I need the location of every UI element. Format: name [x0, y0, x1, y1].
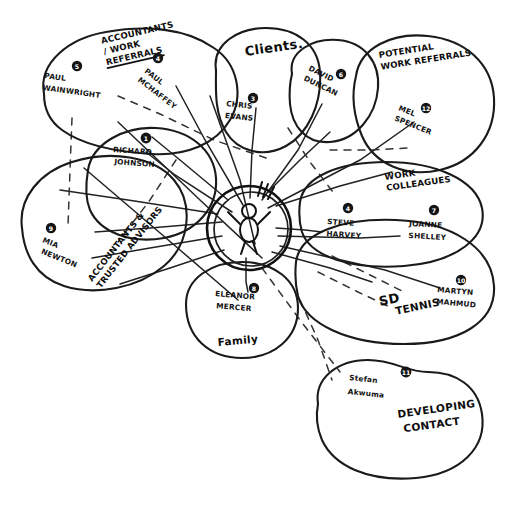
node-eleanor-mercer[interactable]: 8 ELEANOR MERCER	[214, 283, 259, 314]
node-chris-evans[interactable]: 3 CHRIS EVANS	[225, 93, 259, 123]
link-center-to-steve-harvey	[276, 228, 322, 232]
badge-number-martyn-mahmud: 10	[457, 277, 466, 284]
person-name-martyn-mahmud-line1: MARTYN	[437, 285, 474, 297]
person-name-joanne-shelley-line2: SHELLEY	[408, 231, 447, 242]
person-name-richard-johnson-line2: JOHNSON	[113, 157, 155, 169]
badge-number-eleanor-mercer: 8	[252, 285, 256, 292]
link-spoke-lower-right	[272, 252, 372, 282]
link-spoke-right-upper	[276, 172, 392, 206]
node-mia-newton[interactable]: 9 MIA NEWTON	[37, 223, 83, 270]
badge-number-richard-johnson: 1	[144, 135, 148, 142]
person-name-steve-harvey-line2: HARVEY	[326, 229, 362, 240]
node-paul-wainwright[interactable]: 5 PAUL WAINWRIGHT	[42, 61, 103, 100]
network-map-svg: ACCOUNTANTS / WORK REFERRALS Clients. PO…	[0, 0, 520, 510]
person-name-stefan-akwuma-line1: Stefan	[349, 373, 378, 385]
person-name-stefan-akwuma-line2: Akwuma	[347, 387, 384, 400]
node-stefan-akwuma[interactable]: 11 Stefan Akwuma	[347, 367, 411, 400]
badge-number-paul-mchaffey: 4	[156, 55, 161, 62]
person-name-paul-wainwright-line1: PAUL	[44, 71, 67, 83]
person-name-eleanor-mercer-line1: ELEANOR	[215, 289, 256, 301]
badge-number-mia-newton: 9	[49, 225, 53, 232]
person-name-chris-evans-line1: CHRIS	[226, 99, 253, 111]
diagram-canvas: ACCOUNTANTS / WORK REFERRALS Clients. PO…	[0, 0, 520, 510]
link-spoke-lower-left	[120, 250, 224, 284]
person-name-paul-wainwright-line2: WAINWRIGHT	[42, 83, 101, 100]
group-label-developing-contact-line1: DEVELOPING	[397, 397, 476, 420]
badge-number-steve-harvey: 4	[346, 205, 351, 212]
node-joanne-shelley[interactable]: 7 JOANNE SHELLEY	[407, 205, 447, 242]
group-label-sd-tennis-line2: TENNIS	[394, 296, 441, 317]
badge-number-david-duncan: 6	[339, 71, 343, 78]
node-david-duncan[interactable]: 6 DAVID DUNCAN	[302, 64, 346, 98]
badge-number-mel-spencer: 12	[422, 105, 431, 112]
badge-number-joanne-shelley: 7	[432, 207, 436, 214]
link-center-to-paul-wainwright	[95, 222, 222, 232]
person-name-martyn-mahmud-line2: MAHMUD	[436, 297, 477, 309]
badge-number-paul-wainwright: 5	[75, 63, 79, 70]
person-name-richard-johnson-line1: RICHARD	[113, 145, 153, 157]
node-paul-mchaffey[interactable]: 4 PAUL MCHAFFEY	[136, 53, 186, 112]
person-name-joanne-shelley-line1: JOANNE	[408, 219, 443, 230]
person-name-steve-harvey-line1: STEVE	[327, 217, 355, 228]
group-label-family: Family	[217, 333, 258, 348]
badge-number-stefan-akwuma: 11	[402, 369, 411, 376]
node-martyn-mahmud[interactable]: 10 MARTYN MAHMUD	[436, 275, 478, 310]
link-dashed-to-developing-contact	[262, 268, 340, 372]
person-name-mia-newton-line2: NEWTON	[40, 247, 79, 270]
person-name-eleanor-mercer-line2: MERCER	[216, 301, 252, 313]
link-center-to-martyn-mahmud	[280, 246, 440, 288]
link-center-to-mel-spencer	[268, 122, 414, 208]
